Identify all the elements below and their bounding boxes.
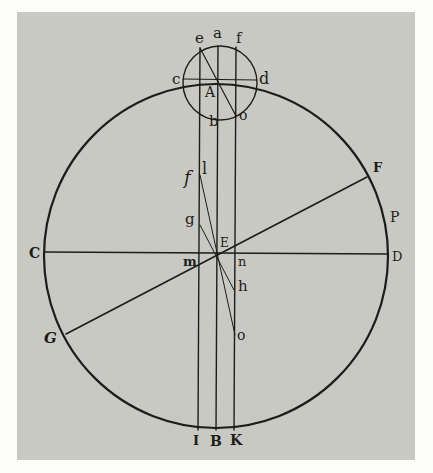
label-I: I xyxy=(193,433,199,448)
label-n: n xyxy=(238,254,247,269)
geometric-figure: e a f c d A b o f l g E m n h o C D F P … xyxy=(0,0,433,473)
label-c-small: c xyxy=(172,70,180,88)
label-b-small: b xyxy=(209,112,219,130)
label-E: E xyxy=(220,236,229,250)
vertical-line-left xyxy=(198,48,200,430)
label-D: D xyxy=(392,249,402,264)
label-B: B xyxy=(210,433,222,449)
label-o-lower: o xyxy=(237,327,245,343)
label-C: C xyxy=(29,245,40,261)
vertical-line-center xyxy=(216,46,218,430)
label-G: G xyxy=(44,329,57,347)
label-a-top: a xyxy=(213,24,222,42)
diagram-stage: e a f c d A b o f l g E m n h o C D F P … xyxy=(0,0,433,473)
label-A-center: A xyxy=(204,84,216,100)
chord-cd xyxy=(183,79,257,80)
label-l: l xyxy=(202,159,207,178)
label-f-left: f xyxy=(182,167,194,188)
label-e-top: e xyxy=(195,29,204,47)
label-F: F xyxy=(373,160,383,175)
label-m: m xyxy=(183,254,197,269)
label-h: h xyxy=(238,277,248,295)
label-f-top: f xyxy=(236,29,243,47)
label-K: K xyxy=(230,432,243,448)
label-g: g xyxy=(185,210,195,228)
vertical-line-right xyxy=(234,47,236,430)
label-d-small: d xyxy=(259,69,269,88)
label-o-small: o xyxy=(239,107,247,123)
label-P: P xyxy=(390,209,399,225)
